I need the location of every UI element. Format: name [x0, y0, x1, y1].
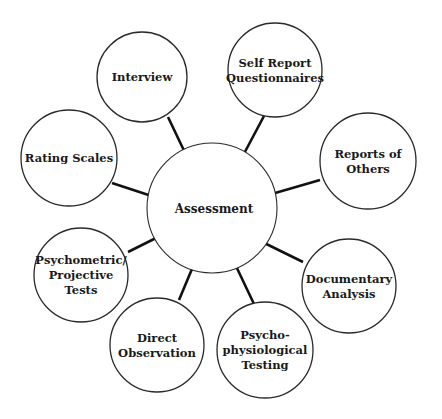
node-label-line: Documentary — [306, 272, 393, 286]
node-psychometric-projective-tests: Psychometric/ProjectiveTests — [34, 228, 128, 322]
node-label-line: Direct — [137, 331, 178, 345]
node-label-line: Projective — [49, 268, 114, 282]
node-self-report-questionnaires: Self ReportQuestionnaires — [226, 23, 324, 117]
node-label-line: Self Report — [239, 56, 313, 70]
node-rating-scales: Rating Scales — [21, 110, 117, 206]
node-label-line: Psycho- — [240, 328, 290, 342]
center-label: Assessment — [174, 202, 254, 216]
node-label-line: Psychometric/ — [35, 253, 127, 267]
node-psychophysiological-testing: Psycho-physiologicalTesting — [217, 302, 313, 398]
node-label-line: Reports of — [334, 147, 402, 161]
node-documentary-analysis: DocumentaryAnalysis — [302, 239, 396, 333]
node-reports-of-others: Reports ofOthers — [320, 113, 416, 209]
node-label-line: Interview — [112, 70, 174, 84]
node-label-line: Testing — [241, 358, 288, 372]
node-label-line: Rating Scales — [25, 151, 113, 165]
node-label-line: Others — [346, 162, 390, 176]
center-node: Assessment — [147, 143, 277, 273]
node-label-line: Observation — [118, 346, 196, 360]
node-interview: Interview — [97, 32, 187, 122]
node-direct-observation: DirectObservation — [110, 298, 204, 392]
node-label-line: physiological — [223, 343, 309, 357]
node-label-line: Questionnaires — [226, 71, 324, 85]
node-label-line: Analysis — [321, 287, 375, 301]
assessment-diagram: Assessment InterviewSelf ReportQuestionn… — [0, 0, 442, 419]
node-label-line: Tests — [65, 283, 98, 297]
